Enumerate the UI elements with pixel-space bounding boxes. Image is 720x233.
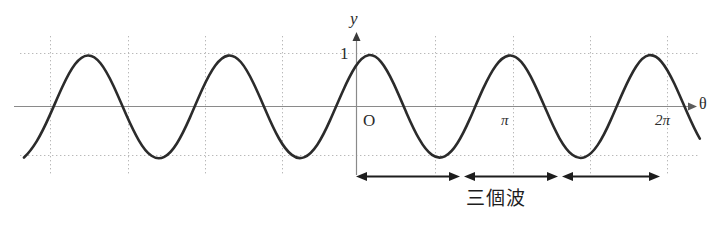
y-axis-arrowhead [353,32,361,41]
measure-arrowhead-left [356,172,367,181]
measure-arrow-wave-3 [562,172,660,181]
y-tick-label-one: 1 [340,45,349,62]
figure-canvas [0,0,720,233]
y-axis-label: y [350,10,358,27]
sine-wave-figure: y 1 O θ π 2π 三個波 [0,0,720,233]
x-axis-arrowhead [688,103,697,111]
y-axis [353,32,361,175]
x-tick-label-two-pi: 2π [655,113,670,128]
measure-arrow-wave-2 [464,172,558,181]
measure-arrowhead-right [547,172,558,181]
x-tick-label-pi: π [501,113,509,128]
measure-arrowhead-right [449,172,460,181]
x-axis [14,103,697,111]
three-waves-caption: 三個波 [466,189,526,208]
measure-arrowhead-left [464,172,475,181]
measure-arrowhead-right [649,172,660,181]
measure-arrowhead-left [562,172,573,181]
wave-measure-arrows [356,172,660,181]
measure-arrow-wave-1 [356,172,460,181]
x-axis-label: θ [699,96,707,112]
origin-label: O [363,112,375,129]
